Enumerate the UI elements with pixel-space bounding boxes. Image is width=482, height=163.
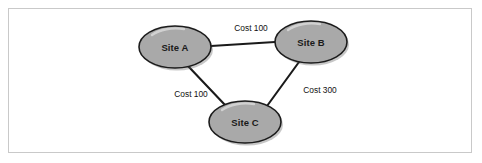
edge-label-a-c: Cost 100: [174, 89, 208, 99]
node-site-c-label: Site C: [231, 117, 259, 128]
edge-line-a-c: [188, 66, 226, 106]
figure-root: Site A Site B Site C Cost 100 Cost 100 C…: [0, 0, 482, 163]
edge-site-a-site-b[interactable]: [211, 42, 275, 46]
edge-site-a-site-c[interactable]: [188, 66, 226, 106]
edge-site-b-site-c[interactable]: [267, 62, 299, 106]
node-layer: Site A Site B Site C: [139, 21, 349, 146]
node-site-a-label: Site A: [161, 42, 188, 53]
edge-line-a-b: [211, 42, 275, 46]
edge-label-b-c: Cost 300: [303, 85, 337, 95]
edge-line-b-c: [267, 62, 299, 106]
node-site-c[interactable]: Site C: [209, 101, 283, 146]
node-site-a[interactable]: Site A: [139, 26, 213, 71]
edge-label-a-b: Cost 100: [234, 23, 268, 33]
network-topology-diagram: Site A Site B Site C Cost 100 Cost 100 C…: [0, 0, 482, 163]
node-site-b-label: Site B: [297, 37, 325, 48]
node-site-b[interactable]: Site B: [275, 21, 349, 66]
